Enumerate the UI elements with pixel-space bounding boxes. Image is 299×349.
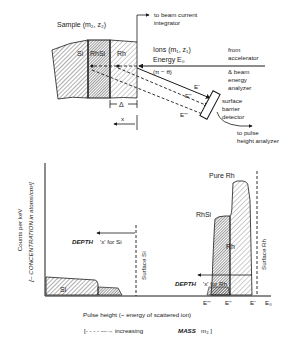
- pulse-label-1: to pulse: [237, 129, 259, 136]
- scatter-point-mid: [116, 64, 119, 67]
- detector-label-3: detector: [222, 113, 244, 120]
- si-layer-label: Si: [77, 50, 84, 57]
- rh-low-step: [207, 287, 230, 295]
- pure-rh-spectrum: [230, 181, 252, 295]
- tick-e2: E'': [225, 299, 232, 306]
- surface-si-label: Surface Si: [140, 251, 147, 280]
- rhsi-layer: [88, 40, 110, 98]
- rhsi-layer-label: RhSi: [90, 50, 106, 57]
- x-label: x: [121, 115, 125, 122]
- ions-label: Ions (m₁, z₁): [153, 46, 191, 54]
- from-label-4: energy: [228, 76, 248, 83]
- rh-layer-label: Rh: [117, 50, 126, 57]
- y-axis-label-1: Counts per keV: [16, 208, 23, 252]
- tick-e0: E₀: [265, 299, 272, 306]
- from-label-2: accelerator: [228, 54, 259, 61]
- rbs-spectrum-chart: Counts per keV [~ CONCENTRATION in atoms…: [16, 163, 272, 334]
- depth-si-suffix: 'x' for Si: [100, 238, 122, 245]
- depth-rh-label: DEPTH: [175, 280, 197, 287]
- y-axis-label-2: [~ CONCENTRATION in atoms/cm³]: [27, 182, 34, 283]
- beam-current-label-2: integrator: [154, 19, 180, 26]
- detector-label-2: barrier: [222, 105, 240, 112]
- si-spectrum-label: Si: [60, 286, 67, 293]
- pulse-label-2: height analyzer: [237, 137, 279, 144]
- energy-e1-label: E': [194, 83, 199, 90]
- sample-label: Sample (m₂, z₂): [57, 21, 106, 29]
- sample-diagram: Sample (m₂, z₂) Si RhSi Rh to beam curre…: [52, 11, 279, 144]
- rbs-diagram: Sample (m₂, z₂) Si RhSi Rh to beam curre…: [0, 0, 299, 349]
- rh-layer: [110, 40, 137, 98]
- detector-label-1: surface: [222, 97, 243, 104]
- integrator-wire: [137, 15, 149, 42]
- from-label-1: from: [228, 46, 240, 53]
- energy-e2-label: E'': [185, 92, 192, 99]
- si-spectrum: [46, 277, 98, 295]
- depth-si-label: DEPTH: [72, 238, 94, 245]
- rh-label: Rh: [226, 243, 235, 250]
- energy-label: Energy E₀: [153, 56, 185, 64]
- x-axis-label: Pulse height (~ energy of scattered ion): [83, 311, 191, 318]
- mass-label-prefix: [- - - - —→ increasing: [84, 327, 144, 334]
- pure-rh-label: Pure Rh: [209, 172, 235, 179]
- si-rhsi-step: [98, 287, 122, 295]
- si-layer: [52, 40, 88, 99]
- surface-rh-label: Surface Rh: [260, 238, 267, 270]
- mass-label-suffix: m₂ ]: [201, 327, 212, 334]
- energy-e3-label: E''': [180, 111, 188, 118]
- tick-e3: E''': [203, 299, 211, 306]
- tick-e1: E': [250, 299, 255, 306]
- angle-label: (π − θ): [153, 68, 172, 75]
- from-label-3: & beam: [228, 68, 249, 75]
- scatter-point-deep: [90, 64, 93, 67]
- delta-label: Δ: [119, 101, 124, 108]
- rhsi-label: RhSi: [196, 211, 212, 218]
- mass-label-mass: MASS: [178, 327, 197, 334]
- beam-current-label-1: to beam current: [154, 11, 198, 18]
- depth-rh-suffix: 'x' for Rh: [203, 280, 228, 287]
- from-label-5: analyzer: [228, 84, 251, 91]
